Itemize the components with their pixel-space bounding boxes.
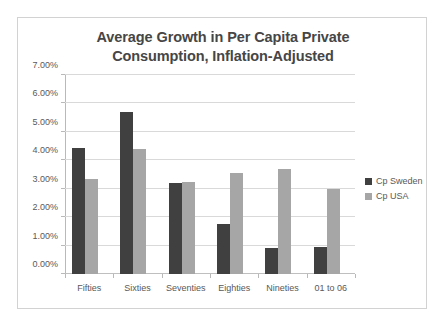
legend-label: Cp Sweden [376, 176, 423, 186]
legend-swatch-icon [365, 178, 372, 185]
bar-cp-sweden[interactable] [72, 148, 85, 275]
bar-cp-usa[interactable] [278, 169, 291, 274]
bar-group: Sixties [113, 75, 161, 274]
bar-cp-usa[interactable] [85, 179, 98, 274]
legend-item[interactable]: Cp Sweden [365, 176, 423, 186]
bar-group: 01 to 06 [307, 75, 355, 274]
bar-cp-sweden[interactable] [265, 248, 278, 274]
plot-area: 0.00%1.00%2.00%3.00%4.00%5.00%6.00%7.00%… [65, 75, 355, 274]
x-axis-tick [307, 274, 308, 278]
y-axis-label: 4.00% [32, 145, 58, 155]
y-axis-label: 1.00% [32, 231, 58, 241]
x-axis-tick [162, 274, 163, 278]
bar-cp-sweden[interactable] [169, 183, 182, 274]
y-axis-label: 0.00% [32, 259, 58, 269]
bar-cp-sweden[interactable] [120, 112, 133, 274]
bar-group: Nineties [258, 75, 306, 274]
chart-title: Average Growth in Per Capita Private Con… [48, 28, 398, 66]
bar-cp-sweden[interactable] [314, 247, 327, 274]
bar-cp-usa[interactable] [230, 173, 243, 274]
y-axis-label: 2.00% [32, 202, 58, 212]
x-axis-tick [113, 274, 114, 278]
y-axis-label: 7.00% [32, 60, 58, 70]
legend-item[interactable]: Cp USA [365, 191, 423, 201]
x-axis-label: 01 to 06 [307, 283, 355, 293]
bar-cp-sweden[interactable] [217, 224, 230, 274]
y-axis-label: 5.00% [32, 117, 58, 127]
legend-swatch-icon [365, 193, 372, 200]
x-axis-label: Seventies [162, 283, 210, 293]
x-axis-tick [210, 274, 211, 278]
chart-container: Average Growth in Per Capita Private Con… [17, 17, 427, 309]
x-axis-tick [65, 274, 66, 278]
legend-label: Cp USA [376, 191, 409, 201]
chart-title-line-1: Average Growth in Per Capita Private [48, 28, 398, 47]
x-axis-tick [258, 274, 259, 278]
chart-title-line-2: Consumption, Inflation-Adjusted [48, 47, 398, 66]
x-axis-label: Fifties [65, 283, 113, 293]
y-axis-label: 3.00% [32, 174, 58, 184]
bar-cp-usa[interactable] [182, 182, 195, 274]
bar-group: Seventies [162, 75, 210, 274]
bar-cp-usa[interactable] [133, 149, 146, 274]
bar-group: Eighties [210, 75, 258, 274]
x-axis-label: Eighties [210, 283, 258, 293]
bar-cp-usa[interactable] [327, 189, 340, 274]
y-axis-label: 6.00% [32, 88, 58, 98]
x-axis-label: Sixties [113, 283, 161, 293]
x-axis-label: Nineties [258, 283, 306, 293]
x-axis-tick [355, 274, 356, 278]
chart-legend: Cp SwedenCp USA [365, 176, 423, 206]
bar-group: Fifties [65, 75, 113, 274]
